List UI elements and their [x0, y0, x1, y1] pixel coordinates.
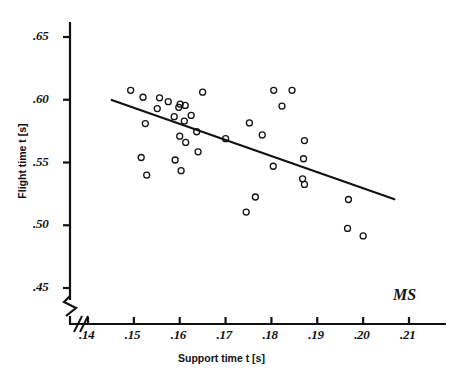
data-point	[181, 118, 187, 124]
data-point	[289, 87, 295, 93]
data-point	[301, 181, 307, 187]
x-tick-label-19: .19	[308, 327, 323, 343]
data-point	[345, 197, 351, 203]
data-points-group	[128, 87, 366, 239]
data-point	[183, 139, 189, 145]
plot-canvas	[0, 0, 454, 379]
data-point	[270, 163, 276, 169]
x-tick-label-20: .20	[354, 327, 369, 343]
x-tick-label-21: .21	[400, 327, 415, 343]
y-tick-label-45: .45	[33, 279, 48, 295]
y-axis-title: Flight time t [s]	[16, 106, 28, 216]
tick-marks-group	[63, 37, 409, 324]
x-tick-label-18: .18	[262, 327, 277, 343]
y-tick-label-50: .50	[33, 216, 48, 232]
data-point	[271, 87, 277, 93]
data-point	[252, 194, 258, 200]
axes-group	[70, 22, 446, 324]
x-tick-label-14: .14	[79, 327, 94, 343]
y-tick-label-65: .65	[33, 28, 48, 44]
y-tick-label-60: .60	[33, 91, 48, 107]
data-point	[140, 94, 146, 100]
x-axis-title: Support time t [s]	[178, 352, 265, 364]
data-point	[165, 99, 171, 105]
data-point	[157, 95, 163, 101]
data-point	[243, 209, 249, 215]
data-point	[177, 133, 183, 139]
ms-annotation: MS	[393, 286, 416, 304]
data-point	[171, 114, 177, 120]
x-tick-label-17: .17	[217, 327, 232, 343]
data-point	[154, 106, 160, 112]
x-tick-label-15: .15	[125, 327, 140, 343]
data-point	[301, 156, 307, 162]
data-point	[200, 89, 206, 95]
data-point	[188, 112, 194, 118]
data-point	[128, 87, 134, 93]
data-point	[301, 138, 307, 144]
regression-line	[111, 100, 395, 200]
data-point	[138, 154, 144, 160]
data-point	[360, 233, 366, 239]
trend-line-group	[111, 100, 395, 200]
data-point	[142, 121, 148, 127]
data-point	[279, 103, 285, 109]
data-point	[195, 149, 201, 155]
data-point	[259, 132, 265, 138]
data-point	[345, 225, 351, 231]
data-point	[178, 168, 184, 174]
data-point	[144, 172, 150, 178]
y-tick-label-55: .55	[33, 154, 48, 170]
x-tick-label-16: .16	[171, 327, 186, 343]
scatter-plot-figure: .14.15.16.17.18.19.20.21 .45.50.55.60.65…	[0, 0, 454, 379]
data-point	[172, 157, 178, 163]
data-point	[246, 120, 252, 126]
